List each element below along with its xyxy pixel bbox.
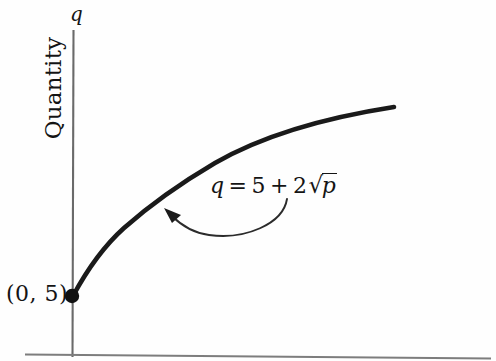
horizontal-axis <box>25 355 491 359</box>
vertical-axis-symbol-label: q <box>70 2 83 26</box>
equation-constant-term: 5 <box>252 173 267 198</box>
equation-lhs: q <box>210 173 225 198</box>
vertical-axis-title: Quantity <box>40 23 66 153</box>
annotation-arrow-shaft <box>172 199 287 236</box>
equation-equals-sign: = <box>225 173 252 198</box>
intercept-point-label: (0, 5) <box>6 281 68 306</box>
curve-equation-label: q=5+2√p <box>210 172 337 198</box>
equation-plus-sign: + <box>266 173 293 198</box>
supply-curve <box>73 107 394 296</box>
supply-curve-figure: q Quantity (0, 5) q=5+2√p <box>0 0 496 361</box>
equation-coefficient: 2 <box>293 173 308 198</box>
equation-radical: √p <box>307 172 337 198</box>
equation-radicand: p <box>322 173 338 197</box>
vertical-axis <box>73 30 74 357</box>
